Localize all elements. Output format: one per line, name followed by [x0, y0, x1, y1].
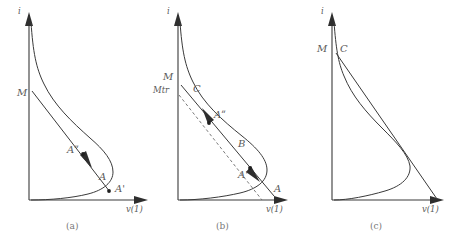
load-line-b [181, 85, 274, 196]
label-M: M [16, 87, 28, 98]
y-axis-arrowhead [174, 12, 182, 26]
label-A-prime: A' [114, 183, 125, 194]
label-M-tr: Mtr [152, 85, 170, 95]
label-A: A [273, 183, 281, 194]
point-a-prime-marker [248, 166, 252, 170]
axes-a [25, 12, 148, 204]
figure-root: i v(1) M Aʺ A A' (a) [0, 0, 456, 237]
y-axis-label: i [167, 6, 170, 16]
panel-c: i v(1) M C (c) [300, 0, 456, 237]
trajectory-arrow-b-down [246, 166, 260, 182]
load-line-c [336, 53, 437, 199]
label-A-double-prime: Aʺ [66, 144, 79, 155]
panel-caption-c: (c) [370, 221, 382, 231]
label-B: B [237, 138, 245, 149]
panel-b: i v(1) M Mtr C Aʺ B A' A (b) [152, 0, 304, 237]
x-axis-label: v(1) [266, 204, 283, 214]
x-axis-arrowhead [134, 196, 148, 204]
label-A: A [98, 171, 106, 182]
x-axis-arrowhead [430, 196, 444, 204]
panel-a: i v(1) M Aʺ A A' (a) [0, 0, 152, 237]
x-axis-label: v(1) [422, 204, 439, 214]
y-axis-arrowhead [25, 12, 33, 26]
label-C: C [193, 83, 201, 94]
point-a-double-prime-marker [207, 121, 211, 125]
label-A-prime: A' [237, 169, 248, 180]
panel-caption-a: (a) [66, 221, 78, 231]
axes-c [328, 12, 444, 204]
y-axis-arrowhead [328, 12, 336, 26]
axes-b [174, 12, 288, 204]
y-axis-label: i [321, 6, 324, 16]
panel-caption-b: (b) [216, 221, 229, 231]
label-M: M [162, 71, 174, 82]
panel-c-plot: i v(1) M C (c) [300, 0, 456, 237]
x-axis-label: v(1) [126, 204, 143, 214]
label-A-double-prime: Aʺ [213, 109, 226, 120]
point-a-prime-marker [107, 189, 111, 193]
label-M: M [316, 43, 328, 54]
label-C: C [340, 43, 348, 54]
panel-a-plot: i v(1) M Aʺ A A' (a) [0, 0, 152, 237]
point-a-double-prime-marker [81, 152, 85, 156]
x-axis-arrowhead [274, 196, 288, 204]
y-axis-label: i [18, 6, 21, 16]
panel-b-plot: i v(1) M Mtr C Aʺ B A' A (b) [152, 0, 304, 237]
